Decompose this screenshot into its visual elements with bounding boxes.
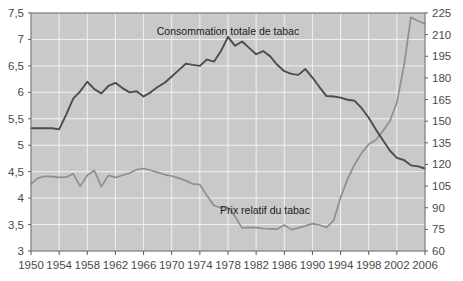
left-axis-tick-label: 4,5 <box>8 166 24 178</box>
bottom-axis-tick-label: 1978 <box>215 259 241 271</box>
right-axis-tick-label: 135 <box>432 137 451 149</box>
right-axis-tick-label: 120 <box>432 158 451 170</box>
right-axis-tick-label: 75 <box>432 223 445 235</box>
right-axis-tick-label: 165 <box>432 94 451 106</box>
chart-figure: 33,544,555,566,577,5 6075901051201351501… <box>0 0 463 281</box>
left-axis-tick-label: 5 <box>18 139 24 151</box>
bottom-axis-tick-label: 1998 <box>356 259 382 271</box>
bottom-axis-tick-label: 2006 <box>412 259 438 271</box>
bottom-axis-tick-label: 1994 <box>328 259 354 271</box>
left-axis-tick-label: 6,5 <box>8 60 24 72</box>
right-axis-tick-label: 150 <box>432 115 451 127</box>
price-series-label: Prix relatif du tabac <box>220 204 310 216</box>
right-axis-tick-label: 90 <box>432 202 445 214</box>
bottom-axis-tick-label: 1986 <box>271 259 297 271</box>
left-axis-tick-label: 3,5 <box>8 219 24 231</box>
right-axis-tick-label: 105 <box>432 180 451 192</box>
right-axis-tick-label: 210 <box>432 29 451 41</box>
right-axis-tick-label: 60 <box>432 245 445 257</box>
left-axis-tick-label: 6 <box>18 86 24 98</box>
consumption-series-label: Consommation totale de tabac <box>157 25 299 37</box>
left-axis-tick-label: 7 <box>18 33 24 45</box>
left-axis-tick-label: 5,5 <box>8 113 24 125</box>
bottom-axis-tick-label: 1966 <box>131 259 157 271</box>
bottom-axis-tick-label: 1954 <box>46 259 72 271</box>
right-axis-tick-label: 180 <box>432 72 451 84</box>
bottom-axis-tick-label: 2002 <box>384 259 410 271</box>
right-axis-tick-label: 225 <box>432 7 451 19</box>
bottom-axis-tick-label: 1958 <box>74 259 100 271</box>
bottom-axis-tick-label: 1970 <box>159 259 185 271</box>
bottom-axis-tick-label: 1962 <box>103 259 129 271</box>
right-axis-tick-label: 195 <box>432 50 451 62</box>
left-axis-tick-label: 3 <box>18 245 24 257</box>
bottom-axis-tick-label: 1982 <box>243 259 269 271</box>
bottom-axis-tick-label: 1990 <box>300 259 326 271</box>
left-axis-tick-label: 7,5 <box>8 7 24 19</box>
tobacco-consumption-price-chart: 33,544,555,566,577,5 6075901051201351501… <box>0 0 463 281</box>
bottom-axis-tick-label: 1974 <box>187 259 213 271</box>
bottom-axis-tick-label: 1950 <box>18 259 44 271</box>
left-axis-tick-label: 4 <box>18 192 25 204</box>
